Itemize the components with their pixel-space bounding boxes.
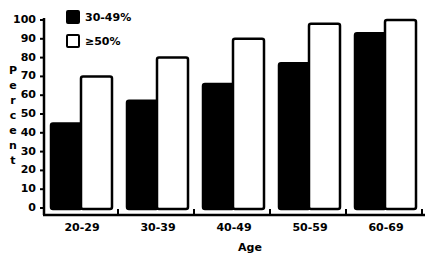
bar-white [385, 20, 416, 209]
bar-white [309, 24, 340, 209]
y-axis-title-char: r [8, 94, 18, 108]
bar-black [51, 123, 82, 209]
legend-label: ≥50% [85, 35, 121, 48]
y-tick-label: 100 [12, 14, 36, 26]
x-category-label: 60-69 [356, 221, 416, 234]
x-category-label: 20-29 [52, 221, 112, 234]
x-category-label: 40-49 [204, 221, 264, 234]
legend-swatch-black [66, 10, 80, 24]
bar-black [279, 63, 310, 209]
legend-item-50-plus: ≥50% [66, 34, 121, 48]
y-axis-title-char: e [8, 79, 18, 93]
y-tick-label: 0 [12, 202, 36, 214]
legend-item-30-49: 30-49% [66, 10, 131, 24]
x-axis-title: Age [220, 241, 280, 254]
bar-white [81, 76, 112, 209]
bar-chart: 30-49% ≥50% 0102030405060708090100 Perce… [0, 0, 433, 261]
y-tick-label: 90 [12, 33, 36, 45]
bar-black [203, 84, 234, 209]
bar-white [233, 39, 264, 209]
y-axis-title-char: c [8, 109, 18, 123]
bar-white [157, 58, 188, 209]
y-tick-label: 10 [12, 183, 36, 195]
y-axis-title-char: n [8, 139, 18, 153]
y-tick-label: 80 [12, 52, 36, 64]
legend-swatch-white [66, 34, 80, 48]
y-axis-title-char: e [8, 124, 18, 138]
bar-black [127, 101, 158, 209]
bar-black [355, 33, 386, 209]
legend-label: 30-49% [85, 11, 131, 24]
y-axis-title-char: P [8, 64, 18, 78]
y-axis-title-char: t [8, 154, 18, 168]
x-category-label: 50-59 [280, 221, 340, 234]
x-category-label: 30-39 [128, 221, 188, 234]
